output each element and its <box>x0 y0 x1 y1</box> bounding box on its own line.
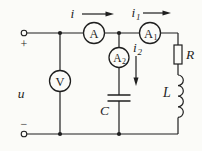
ammeter-2: A 2 <box>109 48 129 68</box>
plus-sign: + <box>21 37 28 51</box>
canvas-background <box>0 0 202 151</box>
voltmeter: V <box>50 71 71 92</box>
positive-terminal-icon <box>21 30 27 36</box>
negative-terminal-icon <box>21 131 27 137</box>
resistor-icon <box>174 45 182 64</box>
ammeter-2-subscript: 2 <box>122 57 126 66</box>
voltmeter-letter: V <box>55 75 64 89</box>
ammeter-2-letter: A <box>113 52 122 64</box>
ammeter-1: A 1 <box>140 23 161 44</box>
current-i-label: i <box>71 6 75 21</box>
current-i1-label: i <box>132 5 136 20</box>
current-i2-subscript: 2 <box>138 47 143 57</box>
minus-sign: − <box>21 117 28 131</box>
junction-dot <box>58 132 62 136</box>
resistor-label: R <box>185 47 195 62</box>
source-voltage-label: u <box>18 86 25 101</box>
junction-dot <box>58 31 62 35</box>
ammeter-main-letter: A <box>89 27 98 41</box>
terminal-positive: + <box>21 30 28 51</box>
circuit-diagram-page: + − u V A A 1 A 2 R L C <box>0 0 202 151</box>
current-i2-label: i <box>133 40 137 55</box>
junction-dot <box>117 31 121 35</box>
terminal-negative: − <box>21 117 28 137</box>
current-i1-subscript: 1 <box>136 12 141 22</box>
circuit-diagram: + − u V A A 1 A 2 R L C <box>0 0 202 151</box>
ammeter-1-subscript: 1 <box>154 33 158 42</box>
junction-dot <box>117 132 121 136</box>
ammeter-1-letter: A <box>144 27 153 41</box>
ammeter-main: A <box>84 23 105 44</box>
inductor-label: L <box>162 85 171 100</box>
capacitor-label: C <box>100 103 110 118</box>
